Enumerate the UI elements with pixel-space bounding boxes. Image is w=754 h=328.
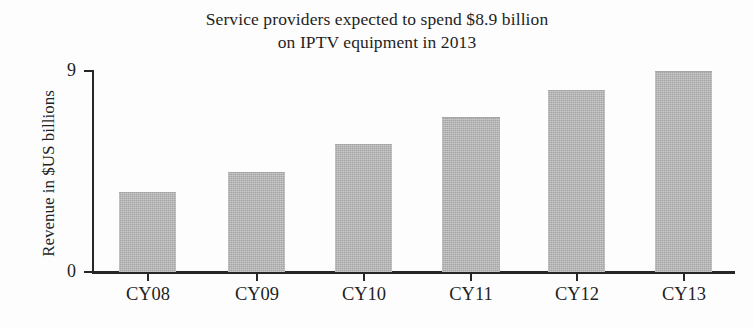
y-axis-line xyxy=(92,70,94,273)
x-tick-mark-cy13 xyxy=(683,273,685,281)
x-tick-label-cy10: CY10 xyxy=(304,283,424,305)
y-axis-title: Revenue in $US billions xyxy=(40,64,57,284)
x-tick-label-cy12: CY12 xyxy=(517,283,637,305)
x-tick-label-cy08: CY08 xyxy=(88,283,208,305)
x-tick-mark-cy12 xyxy=(576,273,578,281)
bar-cy08 xyxy=(119,192,176,272)
y-tick-label-9: 9 xyxy=(50,61,76,79)
x-tick-mark-cy11 xyxy=(470,273,472,281)
bar-cy12 xyxy=(548,90,605,272)
y-tick-mark-9 xyxy=(84,70,93,72)
y-tick-label-0: 0 xyxy=(50,262,76,280)
bar-cy09 xyxy=(228,172,285,272)
plot-area: Revenue in $US billions 9 0 CY08 CY09 CY… xyxy=(0,0,754,328)
y-tick-mark-0 xyxy=(84,271,93,273)
x-tick-label-cy13: CY13 xyxy=(624,283,744,305)
x-tick-label-cy09: CY09 xyxy=(197,283,317,305)
x-tick-label-cy11: CY11 xyxy=(411,283,531,305)
x-tick-mark-cy08 xyxy=(147,273,149,281)
x-tick-mark-cy10 xyxy=(363,273,365,281)
bar-cy11 xyxy=(442,117,500,272)
bar-cy13 xyxy=(655,71,712,272)
chart-figure: Service providers expected to spend $8.9… xyxy=(0,0,754,328)
bar-cy10 xyxy=(335,144,392,272)
x-axis-line xyxy=(92,271,735,274)
x-tick-mark-cy09 xyxy=(256,273,258,281)
